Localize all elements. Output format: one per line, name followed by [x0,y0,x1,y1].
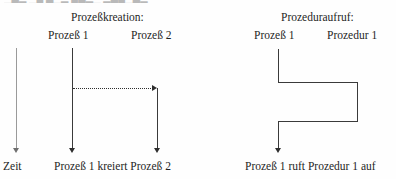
call-path-segment-down-3 [278,121,279,151]
column-label-prozess-1: Prozeß 1 [48,29,89,42]
column-label-prozess-1-right: Prozeß 1 [254,29,295,42]
creation-message-dotted-line [73,88,153,89]
figure-canvas: ▁▃▂ ▁▄ ▃▁▂ ▄▃▂▁ ▂▃▄▁▃▂ Zeit Prozeßkreati… [0,0,396,179]
call-path-segment-right [278,82,358,83]
call-path-segment-down-1 [278,49,279,82]
column-label-prozedur-1: Prozedur 1 [327,29,377,42]
call-path-arrowhead-icon [275,148,281,153]
column-label-prozess-2: Prozeß 2 [131,29,172,42]
lifeline-prozess-2 [157,88,158,151]
time-axis-arrowhead-icon [13,148,19,153]
lifeline-prozess-1-arrowhead-icon [69,148,75,153]
diagram-caption-prozeduraufruf: Prozeß 1 ruft Prozedur 1 auf [245,160,376,173]
call-path-segment-return-left [278,121,358,122]
diagram-title-prozesskreation: Prozeßkreation: [71,11,144,24]
diagram-title-prozeduraufruf: Prozeduraufruf: [281,11,354,24]
lifeline-prozess-1 [72,48,73,151]
time-axis-line [16,48,17,151]
clipped-text-line: ▁▃▂ ▁▄ ▃▁▂ ▄▃▂▁ ▂▃▄▁▃▂ [4,0,154,3]
call-path-segment-down-2 [357,82,358,121]
lifeline-prozess-2-arrowhead-icon [154,148,160,153]
time-axis-label: Zeit [3,160,22,173]
diagram-caption-prozesskreation: Prozeß 1 kreiert Prozeß 2 [54,160,171,173]
